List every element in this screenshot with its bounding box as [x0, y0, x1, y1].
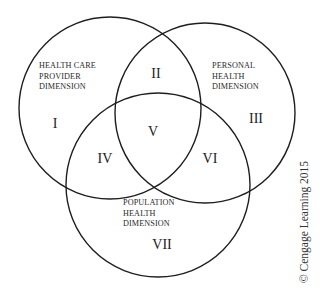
- label-line: PROVIDER: [39, 72, 96, 83]
- label-population-health-dimension: POPULATION HEALTH DIMENSION: [123, 198, 175, 230]
- label-line: HEALTH: [212, 72, 259, 83]
- label-health-care-provider-dimension: HEALTH CARE PROVIDER DIMENSION: [39, 61, 96, 93]
- label-line: DIMENSION: [39, 82, 96, 93]
- label-line: HEALTH CARE: [39, 61, 96, 72]
- label-line: DIMENSION: [212, 82, 259, 93]
- region-vi: VI: [203, 152, 218, 166]
- label-line: HEALTH: [123, 209, 175, 220]
- circle-personal-health: [115, 23, 295, 203]
- region-v: V: [148, 125, 158, 139]
- copyright-notice: © Cengage Learning 2015: [298, 161, 310, 283]
- label-line: PERSONAL: [212, 61, 259, 72]
- region-vii: VII: [152, 238, 171, 252]
- region-iv: IV: [98, 152, 113, 166]
- circle-health-care-provider: [19, 17, 201, 199]
- label-line: POPULATION: [123, 198, 175, 209]
- region-iii: III: [249, 112, 263, 126]
- region-ii: II: [151, 67, 160, 81]
- region-i: I: [53, 117, 58, 131]
- label-personal-health-dimension: PERSONAL HEALTH DIMENSION: [212, 61, 259, 93]
- label-line: DIMENSION: [123, 219, 175, 230]
